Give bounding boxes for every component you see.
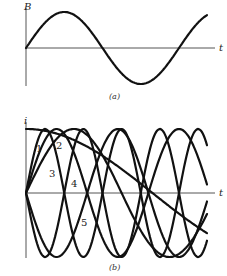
- curve-label-2: 2: [56, 140, 62, 151]
- curve-label-4: 4: [71, 178, 77, 189]
- caption-a: (a): [109, 92, 120, 101]
- x-axis-label-a: t: [219, 42, 224, 53]
- figure: B t (a) i t 1 2 3 4 5 (b): [0, 0, 227, 276]
- curve-label-1: 1: [36, 143, 42, 154]
- panel-a: B t (a): [23, 1, 224, 101]
- curve-label-3: 3: [49, 168, 55, 179]
- curve-label-5: 5: [81, 217, 87, 228]
- panel-b: i t 1 2 3 4 5 (b): [24, 115, 224, 272]
- y-axis-label-a: B: [23, 1, 31, 12]
- caption-b: (b): [109, 263, 120, 272]
- x-axis-label-b: t: [219, 187, 224, 198]
- y-axis-label-b: i: [24, 115, 27, 126]
